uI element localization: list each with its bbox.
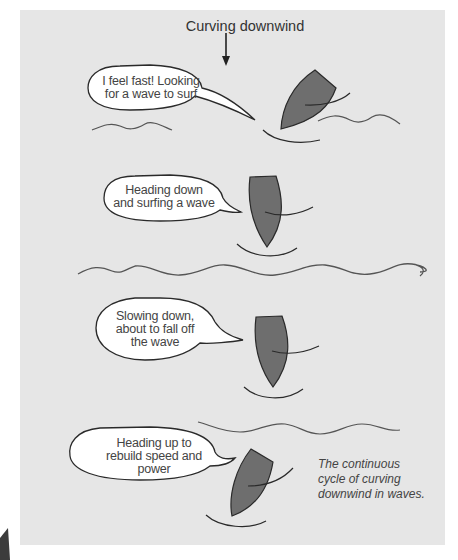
bubble-text-4: Heading up to rebuild speed and power <box>98 437 210 476</box>
wave-line <box>92 123 172 130</box>
bubble-text-1: I feel fast! Looking for a wave to surf <box>98 75 204 101</box>
bubble-line: the wave <box>100 336 210 349</box>
bubble-text-3: Slowing down, about to fall off the wave <box>100 310 210 349</box>
sailboat-2-icon <box>237 176 313 256</box>
caption-line: downwind in waves. <box>318 487 443 502</box>
wave-line <box>78 264 426 276</box>
down-arrow-icon <box>222 33 230 66</box>
bubble-text-2: Heading down and surfing a wave <box>108 184 220 210</box>
caption-line: The continuous <box>318 457 443 472</box>
bubble-line: power <box>98 463 210 476</box>
wave-line <box>318 115 400 124</box>
wave-line <box>198 422 400 434</box>
diagram-caption: The continuous cycle of curving downwind… <box>318 457 443 502</box>
sailboat-1-icon <box>263 70 350 142</box>
sailboat-3-icon <box>244 316 319 398</box>
bubble-line: for a wave to surf <box>98 88 204 101</box>
bubble-line: and surfing a wave <box>108 197 220 210</box>
caption-line: cycle of curving <box>318 472 443 487</box>
diagram-title: Curving downwind <box>180 18 310 34</box>
